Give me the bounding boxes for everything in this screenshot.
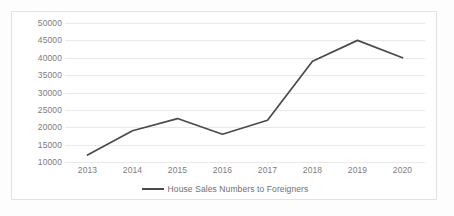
x-tick-label-2015: 2015	[155, 162, 200, 178]
chart-legend: House Sales Numbers to Foreigners	[12, 184, 438, 194]
x-tick-label-2016: 2016	[200, 162, 245, 178]
y-tick-label-25000: 25000	[16, 106, 62, 115]
y-tick-label-30000: 30000	[16, 88, 62, 97]
y-tick-label-40000: 40000	[16, 54, 62, 63]
page-background: 1000015000200002500030000350004000045000…	[0, 0, 454, 216]
legend-label-house-sales: House Sales Numbers to Foreigners	[168, 184, 309, 194]
y-tick-label-10000: 10000	[16, 158, 62, 167]
x-axis-tick-labels: 20132014201520162017201820192020	[65, 162, 425, 178]
y-axis-tick-labels: 1000015000200002500030000350004000045000…	[16, 12, 62, 201]
chart-container: 1000015000200002500030000350004000045000…	[11, 11, 437, 200]
y-tick-label-20000: 20000	[16, 123, 62, 132]
series-polyline	[88, 40, 403, 155]
x-tick-label-2014: 2014	[110, 162, 155, 178]
y-tick-label-50000: 50000	[16, 19, 62, 28]
x-tick-label-2020: 2020	[380, 162, 425, 178]
y-tick-label-15000: 15000	[16, 140, 62, 149]
legend-line-swatch-icon	[142, 188, 164, 190]
x-tick-label-2019: 2019	[335, 162, 380, 178]
x-tick-label-2017: 2017	[245, 162, 290, 178]
chart-plot-wrapper: 1000015000200002500030000350004000045000…	[12, 12, 438, 201]
y-tick-label-35000: 35000	[16, 71, 62, 80]
y-tick-label-45000: 45000	[16, 36, 62, 45]
x-tick-label-2013: 2013	[65, 162, 110, 178]
x-tick-label-2018: 2018	[290, 162, 335, 178]
